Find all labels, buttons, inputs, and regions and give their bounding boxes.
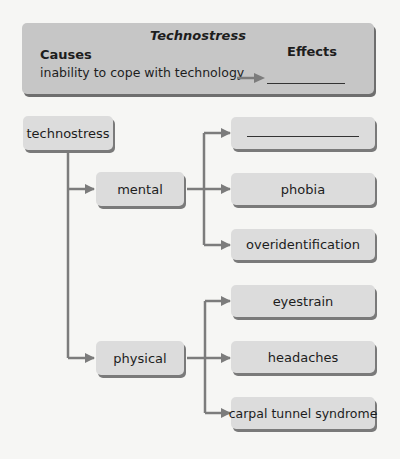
node-phobia: phobia xyxy=(231,173,375,205)
node-technostress: technostress xyxy=(23,116,113,150)
node-label: mental xyxy=(117,182,163,197)
node-label: technostress xyxy=(26,126,109,141)
node-headaches: headaches xyxy=(231,341,375,373)
node-physical: physical xyxy=(96,341,184,375)
node-label: carpal tunnel syndrome xyxy=(229,406,378,421)
node-carpal-tunnel: carpal tunnel syndrome xyxy=(231,397,375,429)
node-mental-blank[interactable] xyxy=(231,117,375,149)
node-label: eyestrain xyxy=(273,294,334,309)
node-label: physical xyxy=(113,351,166,366)
node-overidentification: overidentification xyxy=(231,229,375,260)
node-mental: mental xyxy=(96,172,184,206)
blank-answer-line[interactable] xyxy=(247,136,359,137)
node-label: overidentification xyxy=(246,237,360,252)
node-label: headaches xyxy=(268,350,339,365)
node-label: phobia xyxy=(281,182,325,197)
node-eyestrain: eyestrain xyxy=(231,285,375,317)
